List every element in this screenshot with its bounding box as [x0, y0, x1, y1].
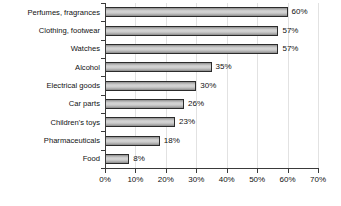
- bar: [105, 99, 184, 109]
- bar: [105, 26, 278, 36]
- bar-value-label: 57%: [282, 44, 298, 54]
- bar-value-label: 18%: [164, 136, 180, 146]
- category-label: Children's toys: [0, 118, 100, 127]
- y-axis-tick: [101, 113, 105, 114]
- x-axis-tick-label: 0%: [99, 175, 111, 184]
- bar: [105, 154, 129, 164]
- category-label: Perfumes, fragrances: [0, 8, 100, 17]
- x-axis-tick: [288, 169, 289, 173]
- y-axis-tick: [101, 95, 105, 96]
- category-label: Food: [0, 154, 100, 163]
- bar-chart: Perfumes, fragrancesClothing, footwearWa…: [0, 0, 341, 206]
- x-axis-tick-label: 20%: [158, 175, 174, 184]
- x-axis-tick: [318, 169, 319, 173]
- bar-value-label: 30%: [200, 81, 216, 91]
- category-axis-labels: Perfumes, fragrancesClothing, footwearWa…: [0, 3, 103, 168]
- y-axis-tick: [101, 131, 105, 132]
- category-label: Car parts: [0, 99, 100, 108]
- x-axis-tick-labels: 0%10%20%30%40%50%60%70%: [105, 175, 319, 189]
- bar: [105, 136, 160, 146]
- x-axis-tick: [227, 169, 228, 173]
- x-axis-tick-label: 10%: [127, 175, 143, 184]
- bar-value-label: 35%: [216, 62, 232, 72]
- bar-value-label: 23%: [179, 117, 195, 127]
- gridline-vertical: [318, 3, 319, 168]
- bar: [105, 44, 278, 54]
- x-axis-tick-label: 30%: [188, 175, 204, 184]
- bar-value-label: 57%: [282, 26, 298, 36]
- x-axis-tick: [166, 169, 167, 173]
- category-label: Pharmaceuticals: [0, 136, 100, 145]
- x-axis-tick: [196, 169, 197, 173]
- category-label: Watches: [0, 44, 100, 53]
- bar: [105, 117, 175, 127]
- x-axis-tick-label: 60%: [280, 175, 296, 184]
- bar: [105, 7, 288, 17]
- y-axis-tick: [101, 58, 105, 59]
- x-axis-tick-label: 70%: [310, 175, 326, 184]
- y-axis-line: [105, 3, 106, 169]
- category-label: Alcohol: [0, 63, 100, 72]
- bar: [105, 81, 196, 91]
- x-axis-tick-label: 50%: [249, 175, 265, 184]
- x-axis-tick: [105, 169, 106, 173]
- y-axis-tick: [101, 76, 105, 77]
- category-label: Electrical goods: [0, 81, 100, 90]
- x-axis-tick: [257, 169, 258, 173]
- bar-value-label: 8%: [133, 154, 145, 164]
- y-axis-tick: [101, 150, 105, 151]
- bar-value-label: 26%: [188, 99, 204, 109]
- y-axis-tick: [101, 21, 105, 22]
- x-axis-tick: [135, 169, 136, 173]
- y-axis-tick: [101, 40, 105, 41]
- bar-value-label: 60%: [292, 7, 308, 17]
- category-label: Clothing, footwear: [0, 26, 100, 35]
- x-axis-tick-label: 40%: [219, 175, 235, 184]
- y-axis-tick: [101, 3, 105, 4]
- bar: [105, 62, 212, 72]
